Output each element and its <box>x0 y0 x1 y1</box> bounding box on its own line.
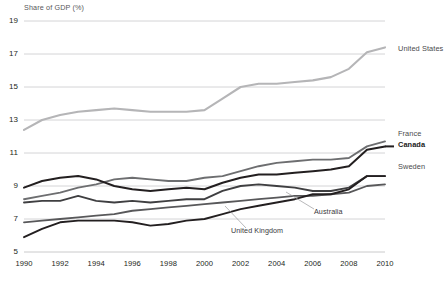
x-axis-tick-label: 2002 <box>224 259 258 268</box>
x-axis-tick-label: 1992 <box>43 259 77 268</box>
y-axis-tick-label: 9 <box>2 181 18 190</box>
y-axis-tick-label: 17 <box>2 49 18 58</box>
y-axis-tick-label: 13 <box>2 115 18 124</box>
series-line-united-states <box>24 47 385 129</box>
annotation-united-kingdom: United Kingdom <box>231 226 283 235</box>
x-axis-tick-label: 2006 <box>296 259 330 268</box>
x-axis-tick-label: 1990 <box>7 259 41 268</box>
legend-item-canada: Canada <box>398 140 425 149</box>
x-axis-tick-label: 2004 <box>260 259 294 268</box>
legend-item-france: France <box>398 129 421 138</box>
x-axis-tick-label: 1996 <box>115 259 149 268</box>
y-axis-tick-label: 11 <box>2 148 18 157</box>
y-axis-tick-label: 19 <box>2 16 18 25</box>
x-axis-tick-label: 2010 <box>368 259 402 268</box>
legend-item-united-states: United States <box>398 44 443 53</box>
line-chart: Share of GDP (%) 1917151311975 199019921… <box>0 0 448 285</box>
y-axis-tick-label: 15 <box>2 82 18 91</box>
y-axis-tick-label: 7 <box>2 214 18 223</box>
x-axis-tick-label: 1994 <box>79 259 113 268</box>
x-axis-tick-label: 2008 <box>332 259 366 268</box>
y-axis-tick-label: 5 <box>2 247 18 256</box>
x-axis-tick-label: 2000 <box>188 259 222 268</box>
chart-axis-title: Share of GDP (%) <box>24 3 84 12</box>
annotation-australia: Australia <box>314 207 343 216</box>
x-axis-tick-label: 1998 <box>151 259 185 268</box>
legend-item-sweden: Sweden <box>398 162 425 171</box>
plot-area <box>0 0 448 285</box>
